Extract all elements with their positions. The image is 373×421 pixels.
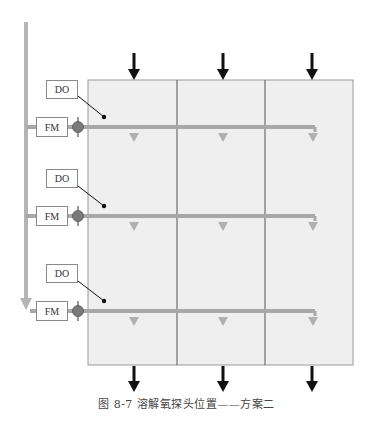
do-label-2: DO [46, 169, 78, 188]
air-supply-main-pipe [20, 22, 32, 310]
do-label-1: DO [46, 80, 78, 99]
arrow-down-icon [20, 298, 32, 310]
arrow-down-icon [128, 53, 140, 80]
do-label-3: DO [46, 264, 78, 283]
valve-icon [73, 117, 84, 137]
fm-label-1: FM [36, 117, 68, 137]
valve-icon [73, 301, 84, 321]
fm-label-2: FM [36, 206, 68, 226]
fm-label-3: FM [36, 301, 68, 321]
figure-caption: 图 8-7 溶解氧探头位置——方案二 [0, 395, 373, 411]
valve-icon [73, 206, 84, 226]
inflow-arrows [128, 53, 318, 80]
arrow-down-icon [128, 366, 140, 392]
arrow-down-icon [217, 53, 229, 80]
diagram-canvas: DO DO DO FM FM FM 图 8-7 溶解氧探头位置——方案二 [0, 0, 373, 421]
outflow-arrows [128, 366, 318, 392]
arrow-down-icon [306, 366, 318, 392]
arrow-down-icon [306, 53, 318, 80]
arrow-down-icon [217, 366, 229, 392]
